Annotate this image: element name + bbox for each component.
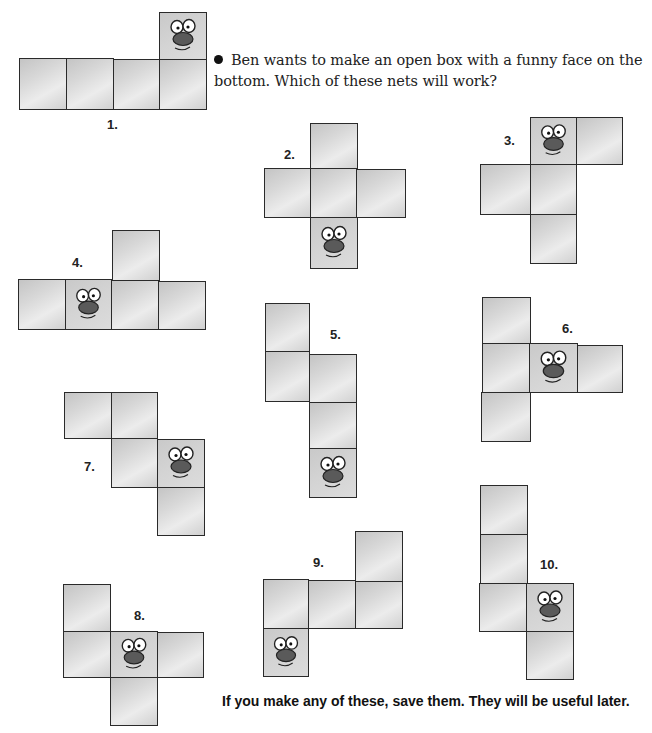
funny-face-icon bbox=[527, 584, 573, 631]
funny-face-icon bbox=[264, 629, 308, 676]
funny-face-icon bbox=[160, 13, 206, 59]
net-4-square bbox=[111, 280, 160, 330]
net-1-face-square bbox=[159, 12, 207, 60]
net-5-square bbox=[309, 402, 357, 450]
net-3-square bbox=[530, 164, 577, 215]
net-10-square bbox=[480, 485, 528, 535]
net-6-square bbox=[481, 392, 531, 442]
net-1-square bbox=[19, 58, 67, 110]
net-4-square bbox=[112, 230, 160, 281]
net-5-square bbox=[309, 354, 357, 404]
net-7-square bbox=[157, 487, 205, 536]
net-9-face-square bbox=[263, 628, 309, 677]
funny-face-icon bbox=[530, 344, 577, 392]
net-5-square bbox=[265, 303, 310, 353]
net-2-square bbox=[356, 169, 406, 218]
net-9-square bbox=[355, 581, 403, 629]
bullet-icon bbox=[214, 55, 223, 64]
net-4-square bbox=[18, 279, 66, 330]
net-6-square bbox=[482, 297, 531, 344]
funny-face-icon bbox=[531, 118, 576, 164]
net-4-square bbox=[158, 281, 206, 330]
net-8-square bbox=[63, 631, 111, 678]
net-5-face-square bbox=[309, 448, 357, 498]
footer-note: If you make any of these, save them. The… bbox=[222, 693, 630, 709]
net-8-square bbox=[157, 632, 204, 678]
question-text: Ben wants to make an open box with a fun… bbox=[214, 50, 650, 92]
net-4-label: 4. bbox=[72, 255, 83, 270]
net-9-square bbox=[308, 580, 356, 629]
net-5-square bbox=[265, 351, 310, 402]
net-7-face-square bbox=[157, 439, 205, 488]
net-7-square bbox=[111, 392, 158, 439]
net-3-square bbox=[530, 214, 577, 264]
net-3-face-square bbox=[530, 117, 577, 165]
net-8-label: 8. bbox=[134, 608, 145, 623]
net-10-face-square bbox=[526, 583, 574, 632]
funny-face-icon bbox=[111, 632, 157, 677]
net-9-square bbox=[263, 579, 309, 629]
net-7-square bbox=[64, 392, 112, 439]
net-8-square bbox=[110, 677, 158, 726]
net-10-square bbox=[479, 583, 527, 632]
net-2-square bbox=[310, 168, 358, 218]
net-2-label: 2. bbox=[284, 147, 295, 162]
net-9-label: 9. bbox=[313, 555, 324, 570]
net-1-label: 1. bbox=[107, 117, 118, 132]
net-10-square bbox=[480, 534, 528, 584]
net-8-face-square bbox=[110, 631, 158, 678]
net-9-square bbox=[355, 531, 403, 582]
net-6-label: 6. bbox=[562, 321, 573, 336]
net-7-square bbox=[111, 438, 158, 488]
net-2-square bbox=[310, 123, 358, 171]
question-body: Ben wants to make an open box with a fun… bbox=[214, 52, 643, 89]
net-4-face-square bbox=[65, 279, 112, 330]
net-7-label: 7. bbox=[84, 459, 95, 474]
net-1-square bbox=[159, 59, 207, 110]
net-6-face-square bbox=[529, 343, 578, 393]
net-1-square bbox=[113, 59, 160, 110]
funny-face-icon bbox=[66, 280, 111, 329]
funny-face-icon bbox=[311, 218, 357, 268]
net-6-square bbox=[577, 345, 623, 393]
net-3-square bbox=[480, 164, 531, 215]
net-10-label: 10. bbox=[540, 557, 558, 572]
funny-face-icon bbox=[158, 440, 204, 487]
net-8-square bbox=[63, 584, 111, 632]
net-5-label: 5. bbox=[330, 327, 341, 342]
net-3-label: 3. bbox=[504, 133, 515, 148]
net-10-square bbox=[526, 631, 574, 680]
net-3-square bbox=[576, 117, 623, 165]
net-1-square bbox=[66, 58, 114, 110]
net-6-square bbox=[482, 343, 531, 393]
funny-face-icon bbox=[310, 449, 356, 497]
net-2-face-square bbox=[310, 217, 358, 269]
net-2-square bbox=[264, 168, 312, 218]
